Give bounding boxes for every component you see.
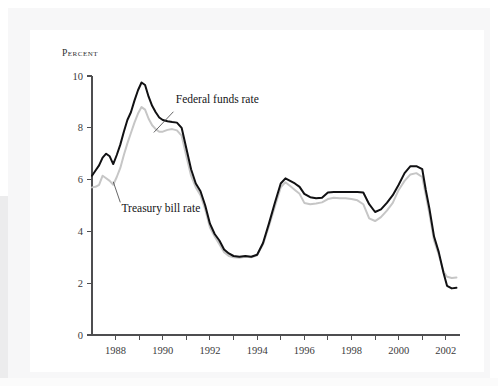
federal-funds-rate-label: Federal funds rate — [176, 93, 259, 105]
figure-panel: Percent 0246810 198819901992199419961998… — [30, 30, 484, 372]
x-tick-label: 2002 — [435, 345, 456, 356]
interest-rates-line-chart: Percent 0246810 198819901992199419961998… — [30, 30, 484, 372]
x-axis-ticks: 19881990199219941996199820002002 — [105, 335, 456, 356]
x-tick-label: 2000 — [388, 345, 409, 356]
y-axis-ticks: 0246810 — [73, 71, 93, 341]
y-axis-title-group: Percent — [62, 47, 98, 58]
x-tick-label: 1992 — [199, 345, 220, 356]
y-tick-label: 0 — [78, 330, 83, 341]
x-tick-label: 1990 — [152, 345, 173, 356]
x-tick-label: 1998 — [341, 345, 362, 356]
y-tick-label: 2 — [78, 278, 83, 289]
y-tick-label: 4 — [78, 226, 84, 237]
series-line-treasury-bill-rate — [92, 107, 456, 278]
y-tick-label: 6 — [78, 174, 83, 185]
y-axis-title: Percent — [62, 47, 98, 58]
y-tick-label: 10 — [73, 71, 84, 82]
treasury-bill-rate-label: Treasury bill rate — [121, 202, 200, 215]
figure-frame: Percent 0246810 198819901992199419961998… — [8, 8, 490, 378]
data-series-group — [92, 82, 456, 288]
y-tick-label: 8 — [78, 122, 83, 133]
slide-bottom-edge-shade — [0, 378, 498, 386]
treasury-bill-rate-label-leader-line — [113, 182, 120, 203]
x-tick-label: 1996 — [294, 345, 315, 356]
x-tick-label: 1988 — [105, 345, 126, 356]
x-tick-label: 1994 — [247, 345, 269, 356]
